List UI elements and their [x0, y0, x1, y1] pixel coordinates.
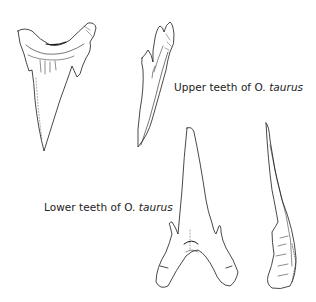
- teeth-illustration: [0, 0, 316, 302]
- upper-teeth-caption: Upper teeth of O. taurus: [174, 81, 303, 93]
- upper-caption-genus: O.: [254, 81, 265, 93]
- lower-teeth-caption: Lower teeth of O. taurus: [44, 201, 173, 213]
- upper-tooth-front-drawing: [18, 23, 96, 151]
- lower-caption-genus: O.: [124, 201, 135, 213]
- upper-tooth-side-drawing: [138, 22, 174, 147]
- lower-tooth-side-drawing: [266, 123, 296, 289]
- upper-caption-species: taurus: [269, 81, 303, 93]
- lower-caption-prefix: Lower teeth of: [44, 201, 124, 213]
- upper-caption-prefix: Upper teeth of: [174, 81, 254, 93]
- lower-caption-species: taurus: [139, 201, 173, 213]
